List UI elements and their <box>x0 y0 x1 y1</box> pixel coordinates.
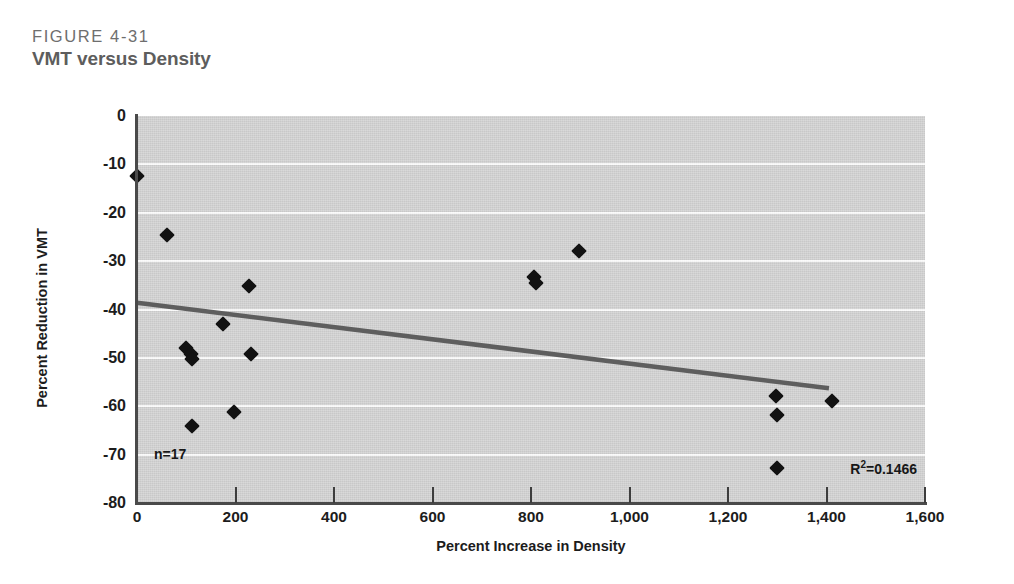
x-axis-title: Percent Increase in Density <box>137 538 925 554</box>
y-axis-tick-label: -40 <box>103 301 126 319</box>
y-axis-tick-label: 0 <box>117 107 126 125</box>
y-axis-tick-labels: 0-10-20-30-40-50-60-70-80 <box>0 0 126 584</box>
y-axis-tick-label: -60 <box>103 397 126 415</box>
x-axis-tick <box>530 487 532 503</box>
x-axis-tick-label: 1,000 <box>610 508 649 526</box>
x-axis-tick-label: 0 <box>133 508 142 526</box>
y-axis-tick-label: -70 <box>103 446 126 464</box>
annotation-sample-size: n=17 <box>154 446 186 462</box>
x-axis-tick <box>235 487 237 503</box>
x-axis-tick-label: 1,200 <box>709 508 748 526</box>
x-axis-tick <box>924 487 926 503</box>
x-axis-tick-label: 800 <box>518 508 544 526</box>
r2-value: =0.1466 <box>866 461 917 477</box>
plot-region: n=17 R2=0.1466 <box>137 116 925 503</box>
x-axis-tick-label: 200 <box>223 508 249 526</box>
x-axis-tick-label: 400 <box>321 508 347 526</box>
y-axis-tick-label: -20 <box>103 204 126 222</box>
r2-prefix: R <box>850 461 860 477</box>
x-axis-tick <box>432 487 434 503</box>
scatter-chart: n=17 R2=0.1466 02004006008001,0001,2001,… <box>0 0 1014 584</box>
x-axis-tick <box>826 487 828 503</box>
x-axis-tick-label: 600 <box>420 508 446 526</box>
x-axis-tick-label: 1,600 <box>906 508 945 526</box>
y-axis-tick-label: -10 <box>103 155 126 173</box>
x-axis-tick-label: 1,400 <box>807 508 846 526</box>
trendline <box>137 116 925 503</box>
y-axis-tick-label: -30 <box>103 252 126 270</box>
y-axis-tick-label: -50 <box>103 349 126 367</box>
annotation-r-squared: R2=0.1466 <box>850 459 917 477</box>
y-axis-title: Percent Reduction in VMT <box>34 168 50 468</box>
y-axis-line <box>135 114 138 505</box>
y-axis-tick-label: -80 <box>103 494 126 512</box>
x-axis-tick <box>333 487 335 503</box>
x-axis-tick <box>629 487 631 503</box>
x-axis-tick <box>727 487 729 503</box>
